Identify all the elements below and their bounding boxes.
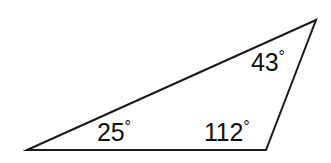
triangle-outline (27, 20, 316, 150)
angle-value-112: 112 (204, 118, 243, 146)
triangle-shape (0, 0, 331, 163)
degree-symbol-icon: ° (124, 118, 130, 135)
angle-label-112: 112° (204, 119, 250, 145)
angle-value-43: 43 (251, 48, 278, 76)
angle-value-25: 25 (97, 118, 124, 146)
degree-symbol-icon: ° (278, 48, 284, 65)
geometry-figure: 25° 112° 43° (0, 0, 331, 163)
angle-label-25: 25° (97, 119, 131, 145)
degree-symbol-icon: ° (243, 118, 249, 135)
angle-label-43: 43° (251, 49, 285, 75)
